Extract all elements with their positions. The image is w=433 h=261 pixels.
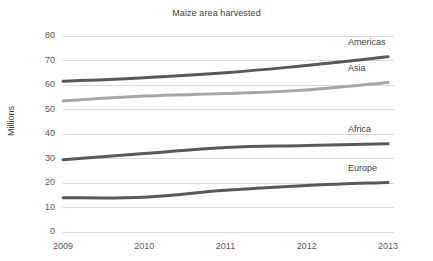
series-line-europe (63, 183, 388, 199)
gridlines (63, 36, 394, 232)
series-line-africa (63, 144, 388, 160)
series-label-americas: Americas (348, 37, 386, 47)
chart-container: Maize area harvested Millions 8070605040… (0, 0, 433, 261)
series-label-europe: Europe (348, 163, 377, 173)
series-label-africa: Africa (348, 124, 371, 134)
series-lines (63, 57, 388, 198)
series-label-asia: Asia (348, 63, 366, 73)
